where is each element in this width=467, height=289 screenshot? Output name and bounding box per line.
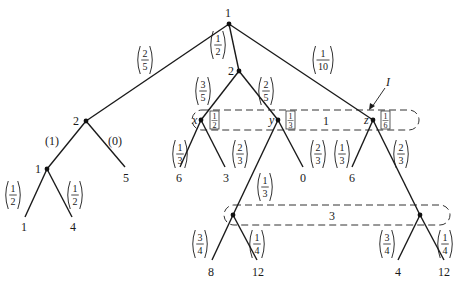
prob-p-l: 34 — [193, 230, 208, 258]
prob-y-l: 13 — [258, 173, 273, 201]
edge-lc-l — [25, 169, 47, 217]
svg-text:3: 3 — [178, 155, 183, 166]
svg-text:3: 3 — [198, 232, 203, 243]
svg-text:4: 4 — [443, 245, 448, 256]
edge-q-l — [398, 215, 420, 260]
svg-text:3: 3 — [238, 155, 243, 166]
player-middle: 2 — [228, 64, 234, 78]
node-middle — [237, 69, 242, 74]
svg-text:1: 1 — [443, 232, 448, 243]
edge-q-r — [420, 215, 444, 260]
node-q — [418, 213, 423, 218]
edge-x-l — [180, 120, 201, 167]
payoff-q-l: 4 — [395, 265, 401, 279]
svg-text:1: 1 — [178, 142, 183, 153]
edge-root-left — [86, 24, 229, 121]
player-info-lower: 3 — [329, 209, 335, 223]
prob-p-r: 14 — [250, 230, 265, 258]
svg-text:2: 2 — [316, 142, 321, 153]
edge-root-right — [229, 24, 373, 120]
belief-y: 1 3 — [286, 111, 295, 130]
node-left — [84, 119, 89, 124]
svg-text:3: 3 — [289, 121, 293, 130]
edge-y-l — [233, 120, 278, 215]
node-x — [199, 118, 204, 123]
svg-text:2: 2 — [213, 121, 217, 130]
node-name-z: z — [363, 113, 369, 127]
prob-lc-l: 12 — [6, 181, 21, 209]
belief-z: 1 6 — [381, 111, 390, 130]
svg-text:3: 3 — [316, 155, 321, 166]
node-left-child — [45, 167, 50, 172]
svg-text:1: 1 — [11, 183, 16, 194]
payoff-z-l: 6 — [349, 171, 355, 185]
svg-text:1: 1 — [213, 112, 217, 121]
belief-x: 1 2 — [210, 111, 219, 130]
svg-text:2: 2 — [143, 48, 148, 59]
edge-mid-x — [201, 71, 239, 120]
svg-text:2: 2 — [399, 142, 404, 153]
svg-text:3: 3 — [263, 188, 268, 199]
svg-text:3: 3 — [385, 232, 390, 243]
prob-x-r: 23 — [233, 140, 248, 168]
svg-text:2: 2 — [216, 46, 221, 57]
node-y — [276, 118, 281, 123]
svg-text:2: 2 — [238, 142, 243, 153]
prob-root-right: 110 — [313, 46, 333, 74]
svg-text:3: 3 — [201, 79, 206, 90]
node-name-x: x — [191, 113, 198, 127]
edge-p-r — [233, 215, 257, 260]
payoff-x-r: 3 — [223, 171, 229, 185]
prob-mid-x: 35 — [196, 77, 211, 105]
game-tree: I 1 2 1 2 1 3 x y z 1 2 1 3 1 6 25121 — [0, 0, 467, 289]
svg-text:1: 1 — [255, 232, 260, 243]
info-set-label: I — [385, 75, 391, 89]
payoff-p-l: 8 — [208, 265, 214, 279]
payoff-y-r: 0 — [300, 171, 306, 185]
svg-text:1: 1 — [263, 175, 268, 186]
svg-text:3: 3 — [399, 155, 404, 166]
payoff-lc-l: 1 — [21, 220, 27, 234]
prob-left-r: (0) — [108, 134, 122, 148]
prob-left-l: (1) — [45, 134, 59, 148]
player-left: 2 — [73, 114, 79, 128]
prob-z-l: 13 — [335, 140, 350, 168]
svg-text:1: 1 — [289, 112, 293, 121]
svg-text:10: 10 — [318, 61, 328, 72]
info-set-pointer — [372, 88, 385, 107]
payoff-q-r: 12 — [438, 265, 450, 279]
node-name-y: y — [268, 113, 275, 127]
payoff-x-l: 6 — [176, 171, 182, 185]
player-root: 1 — [225, 6, 231, 20]
svg-text:6: 6 — [384, 121, 388, 130]
svg-text:1: 1 — [321, 48, 326, 59]
edge-p-l — [212, 215, 233, 260]
player-info-upper: 1 — [323, 114, 329, 128]
node-p — [231, 213, 236, 218]
node-z — [371, 118, 376, 123]
node-root — [227, 22, 232, 27]
edge-z-l — [352, 120, 373, 167]
svg-text:5: 5 — [201, 92, 206, 103]
svg-text:1: 1 — [340, 142, 345, 153]
prob-lc-r: 12 — [68, 181, 83, 209]
svg-text:5: 5 — [143, 61, 148, 72]
svg-text:5: 5 — [264, 92, 269, 103]
svg-text:1: 1 — [216, 33, 221, 44]
prob-mid-y: 25 — [259, 77, 274, 105]
prob-z-r: 23 — [394, 140, 409, 168]
svg-text:3: 3 — [340, 155, 345, 166]
svg-text:4: 4 — [385, 245, 390, 256]
svg-text:2: 2 — [11, 196, 16, 207]
svg-text:2: 2 — [73, 196, 78, 207]
player-left-child: 1 — [35, 162, 41, 176]
prob-y-r: 23 — [311, 140, 326, 168]
payoff-left-r: 5 — [123, 171, 129, 185]
payoff-lc-r: 4 — [70, 220, 76, 234]
prob-root-left: 25 — [138, 46, 153, 74]
prob-q-l: 34 — [380, 230, 395, 258]
svg-text:2: 2 — [264, 79, 269, 90]
payoff-p-r: 12 — [252, 265, 264, 279]
svg-text:1: 1 — [384, 112, 388, 121]
svg-text:4: 4 — [255, 245, 260, 256]
